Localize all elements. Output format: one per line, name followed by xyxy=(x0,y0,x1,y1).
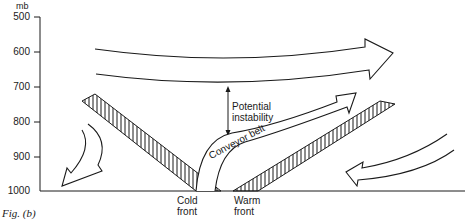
diagram-canvas: mb 500 600 700 800 900 1000 Potential in… xyxy=(0,0,465,224)
warm-front-label-2: front xyxy=(234,206,254,217)
low-level-inflow-arrow xyxy=(346,134,454,186)
warm-front-label-1: Warm xyxy=(234,195,260,206)
y-axis-unit: mb xyxy=(16,2,29,11)
descending-cold-air-arrow xyxy=(62,124,102,186)
y-axis xyxy=(34,17,40,191)
potential-instability-label-1: Potential xyxy=(232,101,271,112)
y-tick-1000: 1000 xyxy=(0,186,30,196)
upper-westerly-flow-arrow xyxy=(95,39,393,82)
potential-instability-arrow xyxy=(226,86,231,136)
y-tick-800: 800 xyxy=(0,117,30,127)
potential-instability-label-2: instability xyxy=(232,112,273,123)
y-tick-900: 900 xyxy=(0,152,30,162)
y-tick-700: 700 xyxy=(0,82,30,92)
cold-front-label-2: front xyxy=(177,206,197,217)
figure-caption: Fig. (b) xyxy=(2,207,36,219)
cold-front-label-1: Cold xyxy=(177,195,198,206)
y-tick-600: 600 xyxy=(0,47,30,57)
y-tick-500: 500 xyxy=(0,12,30,22)
